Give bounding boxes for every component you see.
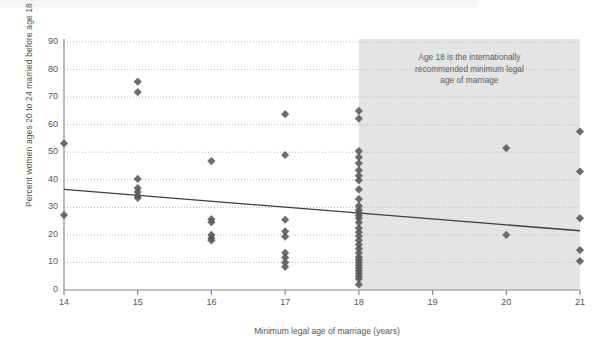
y-axis-tick: 0 [28, 284, 58, 294]
x-axis-tick: 18 [339, 297, 379, 307]
x-axis-tick: 21 [560, 297, 594, 307]
x-axis-title: Minimum legal age of marriage (years) [0, 326, 594, 336]
x-axis-tick: 20 [486, 297, 526, 307]
x-axis-tick: 19 [413, 297, 453, 307]
y-axis-tick: 20 [28, 229, 58, 239]
x-axis-tick: 17 [265, 297, 305, 307]
y-axis-title: Percent women ages 20 to 24 married befo… [24, 0, 34, 230]
shaded-region-annotation: Age 18 is the internationallyrecommended… [364, 52, 574, 87]
annotation-line: age of marriage [364, 75, 574, 87]
scatter-chart: 0102030405060708090 1415161718192021 Per… [0, 0, 594, 348]
x-axis-tick: 15 [118, 297, 158, 307]
annotation-line: Age 18 is the internationally [364, 52, 574, 64]
y-axis-tick: 10 [28, 256, 58, 266]
x-axis-title-text: Minimum legal age of marriage (years) [194, 326, 400, 336]
x-axis-tick: 16 [191, 297, 231, 307]
annotation-line: recommended minimum legal [364, 64, 574, 76]
x-axis-tick: 14 [44, 297, 84, 307]
